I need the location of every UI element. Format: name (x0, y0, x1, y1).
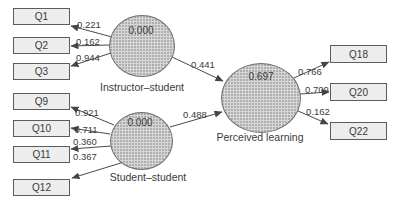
latent-name-instructor-student: Instructor–student (100, 81, 184, 93)
observed-label-q1: Q1 (35, 11, 48, 22)
observed-box-q22: Q22 (330, 122, 387, 140)
path-coefficient-pl-q18: 0.766 (298, 66, 322, 77)
observed-label-q2: Q2 (35, 40, 48, 51)
latent-value-perceived-learning: 0.697 (248, 71, 273, 82)
observed-label-q20: Q20 (349, 87, 368, 98)
observed-label-q22: Q22 (349, 126, 368, 137)
latent-name-student-student: Student–student (110, 171, 186, 183)
observed-box-q12: Q12 (13, 179, 70, 196)
latent-value-instructor-student: 0.000 (128, 25, 153, 36)
path-coefficient-ss-q12: 0.367 (73, 151, 97, 162)
path-coefficient-ss-q11: 0.360 (73, 136, 97, 147)
path-coefficient-pl-q22: 0.162 (306, 106, 330, 117)
path-coefficient-ss-q9: 0.921 (75, 107, 99, 118)
observed-label-q3: Q3 (35, 66, 48, 77)
observed-box-q9: Q9 (13, 93, 70, 110)
path-coefficient-is-q2: 0.162 (76, 36, 100, 47)
observed-label-q9: Q9 (35, 96, 48, 107)
observed-label-q12: Q12 (32, 182, 51, 193)
observed-box-q2: Q2 (13, 37, 70, 54)
observed-box-q20: Q20 (330, 83, 387, 101)
path-coefficient-is-q3: 0.944 (76, 52, 100, 63)
observed-box-q3: Q3 (13, 63, 70, 80)
path-coefficient-is-q1: 0.221 (77, 19, 101, 30)
observed-label-q18: Q18 (349, 49, 368, 60)
path-coefficient-pl-q20: 0.709 (305, 84, 329, 95)
observed-box-q18: Q18 (330, 45, 387, 63)
path-coefficient-ss-pl: 0.488 (183, 109, 207, 120)
observed-label-q10: Q10 (32, 123, 51, 134)
observed-box-q10: Q10 (13, 120, 70, 137)
observed-box-q11: Q11 (13, 146, 70, 163)
sem-path-diagram: Q1 Q2 Q3 Q9 Q10 Q11 Q12 Q18 Q20 Q22 0.00… (0, 0, 399, 207)
observed-box-q1: Q1 (13, 8, 70, 25)
observed-label-q11: Q11 (32, 149, 50, 160)
path-coefficient-is-pl: 0.441 (191, 59, 215, 70)
path-coefficient-ss-q10: 0.711 (74, 124, 97, 135)
latent-name-perceived-learning: Perceived learning (217, 131, 304, 143)
latent-value-student-student: 0.000 (127, 117, 152, 128)
